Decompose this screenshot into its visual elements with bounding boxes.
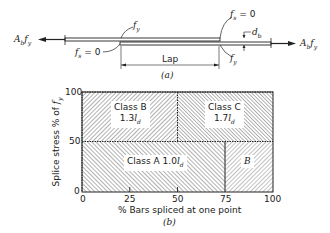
- region-class-a-label: Class A 1.0ld: [124, 155, 187, 171]
- x-axis-label: % Bars spliced at one point: [118, 205, 241, 215]
- bar-diameter-label: db: [252, 27, 262, 41]
- region-class-c-label: Class C 1.7ld: [205, 101, 244, 128]
- x-tick-25: 25: [124, 194, 135, 204]
- region-b-small-label: B: [241, 155, 254, 168]
- top-left-stress-label: fy: [133, 20, 140, 34]
- bottom-left-stress-label: fs = 0: [75, 47, 100, 61]
- y-tick-0: 0: [74, 186, 80, 196]
- x-tick-50: 50: [172, 194, 183, 204]
- x-tick-100: 100: [264, 194, 281, 204]
- x-tick-0: 0: [80, 194, 86, 204]
- y-tick-50: 50: [69, 136, 80, 146]
- left-force-label: Abfy: [14, 34, 31, 48]
- region-class-b-label: Class B 1.3ld: [111, 101, 150, 128]
- y-axis-label: Splice stress % of fy: [51, 98, 65, 187]
- top-right-stress-label: fs = 0: [230, 9, 255, 23]
- x-tick-75: 75: [220, 194, 231, 204]
- caption-b: (b): [163, 217, 176, 227]
- right-force-label: Abfy: [300, 38, 317, 52]
- lap-length-label: Lap: [162, 54, 178, 64]
- caption-a: (a): [161, 70, 173, 80]
- y-tick-100: 100: [65, 87, 82, 97]
- bottom-right-stress-label: fy: [230, 53, 237, 67]
